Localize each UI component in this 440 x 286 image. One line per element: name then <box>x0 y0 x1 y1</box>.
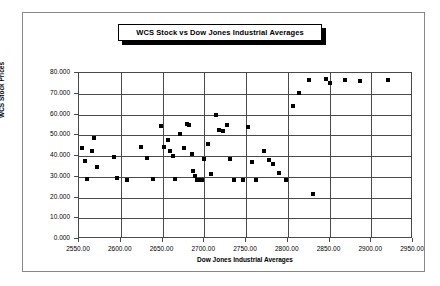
y-tick-mark <box>74 114 78 115</box>
data-point <box>200 178 204 182</box>
data-point <box>151 177 155 181</box>
data-point <box>262 149 266 153</box>
y-tick-mark <box>74 93 78 94</box>
gridline-horizontal <box>79 218 411 219</box>
y-tick-mark <box>74 72 78 73</box>
data-point <box>297 91 301 95</box>
y-tick-mark <box>74 176 78 177</box>
x-tick-label: 2850.00 <box>306 245 352 252</box>
data-point <box>145 156 149 160</box>
y-tick-label: 0.000 <box>26 234 70 241</box>
gridline-vertical <box>246 73 247 237</box>
data-point <box>112 155 116 159</box>
gridline-horizontal <box>79 94 411 95</box>
y-tick-label: 60.000 <box>26 110 70 117</box>
gridline-horizontal <box>79 156 411 157</box>
data-point <box>168 149 172 153</box>
data-point <box>232 178 236 182</box>
chart-title: WCS Stock vs Dow Jones Industrial Averag… <box>136 28 303 37</box>
x-tick-mark <box>412 238 413 242</box>
data-point <box>291 104 295 108</box>
y-tick-label: 80.000 <box>26 68 70 75</box>
data-point <box>358 79 362 83</box>
data-point <box>386 78 390 82</box>
x-tick-label: 2750.00 <box>222 245 268 252</box>
data-point <box>343 78 347 82</box>
data-point <box>284 178 288 182</box>
data-point <box>191 169 195 173</box>
data-point <box>171 154 175 158</box>
data-point <box>85 177 89 181</box>
data-point <box>166 138 170 142</box>
data-point <box>162 145 166 149</box>
x-tick-mark <box>120 238 121 242</box>
data-point <box>173 177 177 181</box>
data-point <box>328 81 332 85</box>
x-axis-title: Dow Jones Industrial Averages <box>78 256 412 263</box>
gridline-horizontal <box>79 115 411 116</box>
x-tick-mark <box>203 238 204 242</box>
gridline-vertical <box>371 73 372 237</box>
data-point <box>187 123 191 127</box>
data-point <box>228 157 232 161</box>
gridline-vertical <box>204 73 205 237</box>
x-tick-label: 2800.00 <box>264 245 310 252</box>
data-point <box>139 145 143 149</box>
data-point <box>125 178 129 182</box>
data-point <box>206 142 210 146</box>
data-point <box>190 152 194 156</box>
data-point <box>311 192 315 196</box>
data-point <box>277 171 281 175</box>
data-point <box>250 160 254 164</box>
x-tick-mark <box>78 238 79 242</box>
data-point <box>221 129 225 133</box>
x-tick-label: 2950.00 <box>389 245 435 252</box>
x-tick-mark <box>287 238 288 242</box>
y-tick-label: 30.000 <box>26 172 70 179</box>
gridline-vertical <box>121 73 122 237</box>
data-point <box>92 136 96 140</box>
data-point <box>83 159 87 163</box>
y-tick-label: 40.000 <box>26 151 70 158</box>
x-tick-mark <box>370 238 371 242</box>
data-point <box>225 123 229 127</box>
gridline-vertical <box>330 73 331 237</box>
data-point <box>80 146 84 150</box>
y-tick-mark <box>74 155 78 156</box>
data-point <box>214 113 218 117</box>
x-tick-label: 2600.00 <box>97 245 143 252</box>
x-tick-mark <box>329 238 330 242</box>
x-tick-label: 2650.00 <box>139 245 185 252</box>
data-point <box>159 124 163 128</box>
x-tick-mark <box>245 238 246 242</box>
gridline-vertical <box>288 73 289 237</box>
data-point <box>182 146 186 150</box>
plot-area <box>78 72 412 238</box>
y-axis-title: WCS Stock Prices <box>0 62 5 118</box>
y-tick-label: 10.000 <box>26 213 70 220</box>
data-point <box>246 125 250 129</box>
chart-title-container: WCS Stock vs Dow Jones Industrial Averag… <box>118 24 322 41</box>
x-tick-label: 2550.00 <box>55 245 101 252</box>
data-point <box>202 157 206 161</box>
x-tick-mark <box>162 238 163 242</box>
y-tick-label: 20.000 <box>26 193 70 200</box>
gridline-horizontal <box>79 198 411 199</box>
y-tick-mark <box>74 197 78 198</box>
gridline-horizontal <box>79 135 411 136</box>
y-tick-mark <box>74 217 78 218</box>
data-point <box>271 162 275 166</box>
y-tick-mark <box>74 134 78 135</box>
y-tick-label: 50.000 <box>26 130 70 137</box>
chart-title-box: WCS Stock vs Dow Jones Industrial Averag… <box>118 24 322 41</box>
data-point <box>90 149 94 153</box>
data-point <box>254 178 258 182</box>
x-tick-label: 2900.00 <box>347 245 393 252</box>
data-point <box>209 172 213 176</box>
screenshot-root: WCS Stock vs Dow Jones Industrial Averag… <box>0 0 440 286</box>
x-tick-label: 2700.00 <box>180 245 226 252</box>
data-point <box>307 78 311 82</box>
gridline-vertical <box>163 73 164 237</box>
data-point <box>95 165 99 169</box>
y-tick-label: 70.000 <box>26 89 70 96</box>
